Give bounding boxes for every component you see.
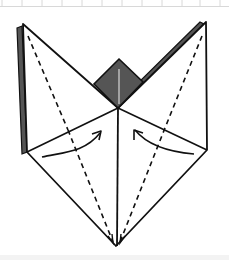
origami-diagram [0,0,229,260]
center-fold-line [117,108,118,246]
bottom-border-strip [0,255,229,260]
paper-outline [23,22,207,246]
